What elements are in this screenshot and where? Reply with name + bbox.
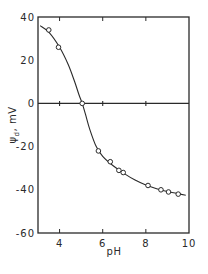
data-point-marker: [146, 183, 151, 188]
y-tick-label: -20: [16, 141, 35, 152]
x-tick-label: 4: [56, 238, 63, 249]
y-label-symbol: ψ: [7, 136, 18, 143]
fitted-curve: [40, 26, 186, 196]
data-point-marker: [159, 188, 164, 193]
y-tick-label: -60: [16, 228, 35, 239]
svg-text:ψd, mV: ψd, mV: [7, 106, 21, 143]
x-tick-label: 6: [99, 238, 106, 249]
y-axis-label: ψd, mV: [7, 106, 21, 143]
zero-reference-line: [38, 101, 189, 106]
data-point-marker: [176, 192, 181, 197]
data-points: [46, 28, 180, 197]
x-axis-ticks: 46810: [56, 17, 196, 249]
data-point-marker: [56, 45, 61, 50]
data-point-marker: [121, 170, 126, 175]
x-axis-label: pH: [107, 246, 122, 257]
data-point-marker: [96, 149, 101, 154]
chart-container: 46810 40200-20-40-60 pH ψd, mV: [0, 0, 208, 274]
y-tick-label: 20: [20, 55, 35, 66]
data-point-marker: [108, 159, 113, 164]
y-label-unit: , mV: [7, 106, 18, 131]
y-tick-label: -40: [16, 184, 35, 195]
y-tick-label: 40: [20, 12, 35, 23]
data-point-marker: [80, 101, 85, 106]
y-axis-ticks: 40200-20-40-60: [16, 12, 35, 239]
x-tick-label: 8: [142, 238, 149, 249]
y-tick-label: 0: [28, 98, 35, 109]
data-point-marker: [166, 190, 171, 195]
ph-potential-plot: 46810 40200-20-40-60 pH ψd, mV: [0, 0, 208, 274]
data-point-marker: [46, 28, 51, 33]
x-tick-label: 10: [182, 238, 197, 249]
